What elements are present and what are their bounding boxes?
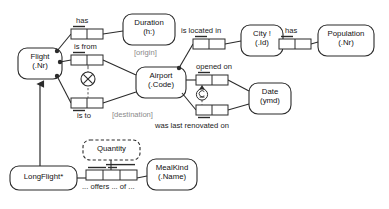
predicate-label-city-has: has <box>285 27 297 35</box>
fact-type-renovated-on[interactable] <box>196 105 228 118</box>
entity-label-city: City ! (.Id) <box>241 30 283 47</box>
entity-ref-flight: (.Nr) <box>18 62 62 71</box>
connector-airport-renovatedon <box>182 93 196 110</box>
mandatory-dot-flight-isto <box>55 74 59 78</box>
connector-has-duration <box>103 31 123 34</box>
connector-isto-airport <box>103 92 136 103</box>
entity-label-airport: Airport (.Code) <box>136 72 186 89</box>
fact-type-offers[interactable] <box>86 165 137 180</box>
entity-label-flight: Flight (.Nr) <box>18 53 62 70</box>
fact-type-is-from[interactable] <box>71 53 103 66</box>
fact-type-opened-on[interactable] <box>196 73 228 86</box>
predicate-label-is-to: is to <box>77 112 91 120</box>
entity-label-longflight: LongFlight* <box>10 173 77 182</box>
predicate-label-renovated-on: was last renovated on <box>155 122 229 130</box>
mandatory-dot-airport-islocatedin <box>177 66 181 70</box>
entity-ref-date: (ymd) <box>249 97 291 106</box>
connector-flight-isto <box>57 76 71 103</box>
role-annotation-origin: [origin] <box>134 49 157 57</box>
connector-has-population <box>311 42 318 44</box>
entity-ref-city: (.Id) <box>241 39 283 48</box>
orm-diagram-canvas: Flight (.Nr) Duration (h:) Airport (.Cod… <box>0 0 389 209</box>
role-annotation-destination: [destination] <box>112 111 153 119</box>
predicate-label-has-duration: has <box>76 17 88 25</box>
entity-name-longflight: LongFlight* <box>10 173 77 182</box>
fact-type-city-has-population[interactable] <box>279 37 311 50</box>
entity-name-quantity: Quantity <box>83 145 140 154</box>
connector-renovatedon-date <box>228 104 249 110</box>
fact-type-is-to[interactable] <box>71 98 103 111</box>
fact-type-is-located-in[interactable] <box>193 37 225 50</box>
entity-ref-population: (.Nr) <box>318 39 374 48</box>
entity-label-population: Population (.Nr) <box>318 30 374 47</box>
entity-ref-duration: (h:) <box>123 28 175 37</box>
predicate-label-is-located-in: is located in <box>181 27 221 35</box>
entity-ref-mealkind: (.Name) <box>147 173 197 182</box>
connector-flight-has <box>57 34 71 51</box>
predicate-label-opened-on: opened on <box>196 63 232 71</box>
entity-label-date: Date (ymd) <box>249 88 291 105</box>
connector-islocatedin-city <box>225 41 241 44</box>
connector-offers-mealkind <box>137 176 147 178</box>
entity-label-mealkind: MealKind (.Name) <box>147 164 197 181</box>
connector-isfrom-airport <box>103 60 136 75</box>
constraint-exclusion-origin-destination[interactable] <box>81 65 95 98</box>
connector-openedon-date <box>228 80 249 91</box>
entity-ref-airport: (.Code) <box>136 81 186 90</box>
entity-label-quantity: Quantity <box>83 145 140 154</box>
constraint-subset-opened-renovated[interactable] <box>196 85 207 105</box>
entity-label-duration: Duration (h:) <box>123 19 175 36</box>
predicate-label-offers: ... offers ... of ... <box>82 183 135 191</box>
connector-airport-islocatedin <box>179 44 193 68</box>
fact-type-has-duration[interactable] <box>71 27 103 40</box>
predicate-label-is-from: is from <box>74 43 97 51</box>
